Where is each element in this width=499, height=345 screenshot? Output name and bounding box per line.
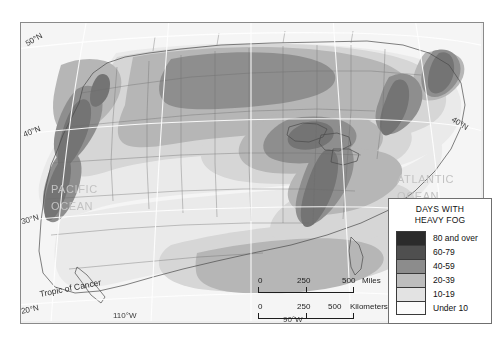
legend-swatch-10-19	[396, 287, 426, 301]
legend-label-20-39: 20-39	[433, 275, 455, 285]
legend-row: 80 and over	[396, 231, 491, 245]
legend-row: 40-59	[396, 259, 491, 273]
legend-label-40-59: 40-59	[433, 261, 455, 271]
legend-rows: 80 and over 60-79 40-59 20-39 10-19 Unde…	[389, 231, 491, 315]
legend-label-60-79: 60-79	[433, 247, 455, 257]
map-figure: PACIFIC OCEAN ATLANTIC OCEAN 50°N 40°N 3…	[0, 0, 499, 345]
legend-title-line-2: HEAVY FOG	[389, 215, 491, 226]
legend-title-line-1: DAYS WITH	[389, 204, 491, 215]
legend-swatch-under-10	[396, 301, 426, 315]
legend-swatch-60-79	[396, 245, 426, 259]
legend-swatch-40-59	[396, 259, 426, 273]
legend-label-10-19: 10-19	[433, 289, 455, 299]
legend-title: DAYS WITH HEAVY FOG	[389, 204, 491, 226]
legend-row: 20-39	[396, 273, 491, 287]
legend-label-under-10: Under 10	[433, 303, 468, 313]
legend-label-80-and-over: 80 and over	[433, 233, 478, 243]
legend-row: Under 10	[396, 301, 491, 315]
legend-row: 10-19	[396, 287, 491, 301]
legend-row: 60-79	[396, 245, 491, 259]
map-legend: DAYS WITH HEAVY FOG 80 and over 60-79 40…	[388, 198, 492, 324]
legend-swatch-20-39	[396, 273, 426, 287]
legend-swatch-80-and-over	[396, 231, 426, 245]
